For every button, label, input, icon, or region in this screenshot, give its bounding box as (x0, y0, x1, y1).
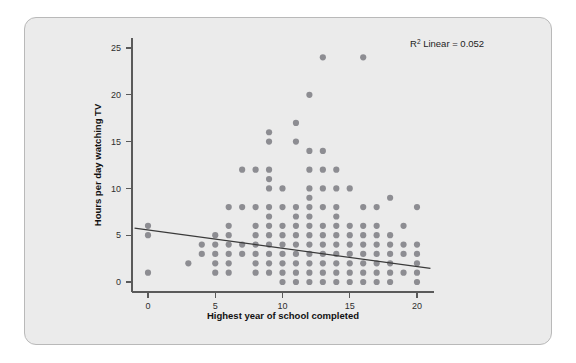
data-point (347, 241, 353, 247)
data-point (360, 223, 366, 229)
data-point (347, 223, 353, 229)
data-point (306, 167, 312, 173)
data-point (293, 260, 299, 266)
data-point (266, 176, 272, 182)
data-point (347, 251, 353, 257)
data-point (374, 251, 380, 257)
r-annotation-suffix: Linear = 0.052 (421, 38, 485, 49)
data-point (320, 167, 326, 173)
data-point (266, 223, 272, 229)
data-point (266, 232, 272, 238)
data-point (253, 167, 259, 173)
data-point (333, 270, 339, 276)
y-tick-label: 5 (116, 230, 121, 240)
data-point (374, 204, 380, 210)
data-point (360, 270, 366, 276)
data-point (145, 223, 151, 229)
data-point (306, 260, 312, 266)
data-point (387, 241, 393, 247)
data-point (212, 232, 218, 238)
data-point (266, 167, 272, 173)
data-point (360, 279, 366, 285)
data-point (400, 270, 406, 276)
data-points (145, 54, 420, 285)
data-point (387, 270, 393, 276)
data-point (374, 232, 380, 238)
data-point (293, 232, 299, 238)
x-axis-ticks: 05101520 (145, 292, 422, 311)
data-point (360, 260, 366, 266)
data-point (400, 223, 406, 229)
data-point (347, 270, 353, 276)
data-point (306, 279, 312, 285)
data-point (374, 270, 380, 276)
data-point (333, 204, 339, 210)
data-point (279, 260, 285, 266)
data-point (414, 270, 420, 276)
data-point (226, 270, 232, 276)
data-point (306, 195, 312, 201)
data-point (293, 204, 299, 210)
data-point (293, 270, 299, 276)
x-tick-label: 20 (412, 301, 422, 311)
data-point (347, 279, 353, 285)
data-point (387, 232, 393, 238)
data-point (306, 232, 312, 238)
data-point (320, 185, 326, 191)
y-tick-label: 0 (116, 277, 121, 287)
data-point (347, 260, 353, 266)
x-axis-title: Highest year of school completed (207, 310, 359, 321)
data-point (253, 232, 259, 238)
data-point (374, 241, 380, 247)
data-point (333, 213, 339, 219)
y-tick-label: 15 (111, 137, 121, 147)
data-point (266, 139, 272, 145)
data-point (266, 260, 272, 266)
data-point (320, 270, 326, 276)
data-point (145, 270, 151, 276)
data-point (293, 223, 299, 229)
data-point (266, 204, 272, 210)
y-tick-label: 25 (111, 43, 121, 53)
data-point (360, 204, 366, 210)
data-point (306, 92, 312, 98)
data-point (253, 204, 259, 210)
data-point (199, 251, 205, 257)
data-point (279, 251, 285, 257)
data-point (333, 241, 339, 247)
data-point (320, 204, 326, 210)
data-point (279, 185, 285, 191)
data-point (279, 241, 285, 247)
data-point (266, 185, 272, 191)
data-point (347, 232, 353, 238)
data-point (306, 223, 312, 229)
y-tick-label: 10 (111, 184, 121, 194)
data-point (279, 270, 285, 276)
data-point (293, 241, 299, 247)
data-point (253, 270, 259, 276)
data-point (239, 251, 245, 257)
data-point (145, 232, 151, 238)
data-point (226, 232, 232, 238)
data-point (279, 223, 285, 229)
data-point (320, 148, 326, 154)
data-point (266, 251, 272, 257)
data-point (320, 232, 326, 238)
r-squared-annotation: R2 Linear = 0.052 (410, 38, 484, 50)
data-point (293, 213, 299, 219)
data-point (293, 279, 299, 285)
data-point (360, 251, 366, 257)
data-point (212, 270, 218, 276)
x-tick-label: 0 (145, 301, 150, 311)
data-point (414, 251, 420, 257)
data-point (387, 279, 393, 285)
data-point (333, 260, 339, 266)
y-axis-ticks: 0510152025 (111, 43, 132, 287)
data-point (253, 260, 259, 266)
data-point (333, 232, 339, 238)
data-point (266, 129, 272, 135)
data-point (239, 167, 245, 173)
y-tick-label: 20 (111, 90, 121, 100)
data-point (293, 120, 299, 126)
data-point (306, 270, 312, 276)
